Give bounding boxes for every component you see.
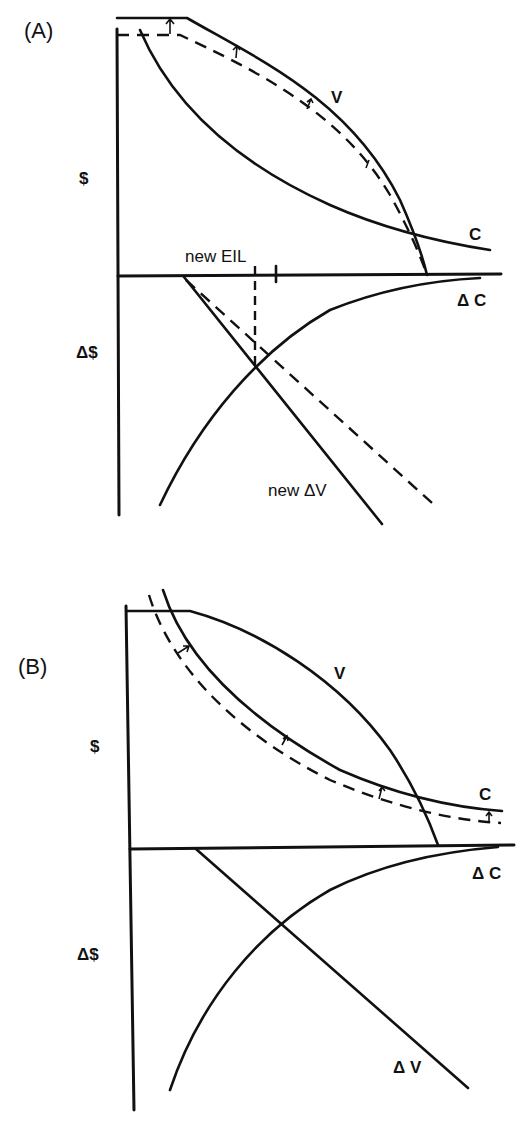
- panel-b-x-axis: [130, 845, 514, 849]
- panel-a-delta-c-label: Δ C: [457, 291, 486, 310]
- panel-b: (B) $ Δ$ V C Δ C Δ V: [18, 590, 514, 1110]
- panel-a: (A) $ Δ$ new EIL V C Δ C new ΔV: [24, 18, 501, 524]
- panel-a-c-label: C: [469, 225, 481, 244]
- panel-b-delta-v-label: Δ V: [393, 1058, 422, 1077]
- panel-b-delta-dollar-label: Δ$: [77, 945, 99, 964]
- panel-a-old-delta-v-dashed-line: [186, 280, 432, 503]
- panel-b-label: (B): [18, 654, 47, 679]
- panel-b-c-dashed-curve: [149, 595, 501, 823]
- panel-b-shift-arrow: [178, 646, 189, 653]
- diagram-canvas: (A) $ Δ$ new EIL V C Δ C new ΔV: [0, 0, 521, 1121]
- panel-a-x-axis: [118, 274, 501, 276]
- panel-a-new-eil-label: new EIL: [185, 247, 246, 266]
- panel-a-v-curve: [117, 18, 427, 275]
- panel-b-c-label: C: [479, 785, 491, 804]
- panel-b-c-curve: [163, 590, 502, 811]
- panel-a-v-dashed-curve: [117, 35, 427, 275]
- panel-b-dollar-label: $: [90, 737, 100, 756]
- panel-a-shift-arrow: [233, 46, 240, 58]
- panel-a-c-curve: [140, 30, 490, 250]
- panel-a-dollar-label: $: [79, 169, 89, 188]
- panel-b-delta-c-label: Δ C: [472, 864, 501, 883]
- panel-b-shift-arrow: [379, 787, 385, 799]
- panel-a-delta-dollar-label: Δ$: [76, 343, 98, 362]
- panel-a-label: (A): [24, 18, 53, 43]
- panel-b-shift-arrow: [282, 736, 288, 745]
- panel-a-delta-c-curve: [160, 278, 480, 505]
- panel-a-new-delta-v-label: new ΔV: [268, 481, 327, 500]
- panel-b-y-axis: [126, 606, 134, 1110]
- panel-b-v-curve: [127, 611, 438, 845]
- panel-b-v-label: V: [334, 664, 346, 683]
- panel-a-shift-arrow: [166, 19, 174, 34]
- panel-a-v-label: V: [331, 88, 343, 107]
- panel-a-y-axis: [117, 29, 119, 515]
- panel-a-shift-arrow: [307, 99, 313, 109]
- panel-b-delta-c-curve: [170, 847, 498, 1090]
